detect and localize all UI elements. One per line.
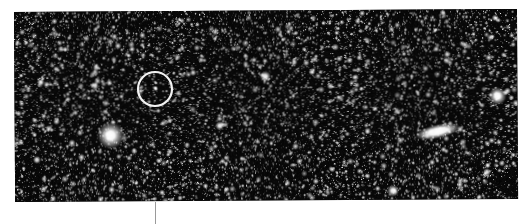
astronomical-figure [0,0,530,224]
star-field-canvas [14,9,518,202]
photographic-plate [14,9,518,202]
leader-line [155,202,156,224]
